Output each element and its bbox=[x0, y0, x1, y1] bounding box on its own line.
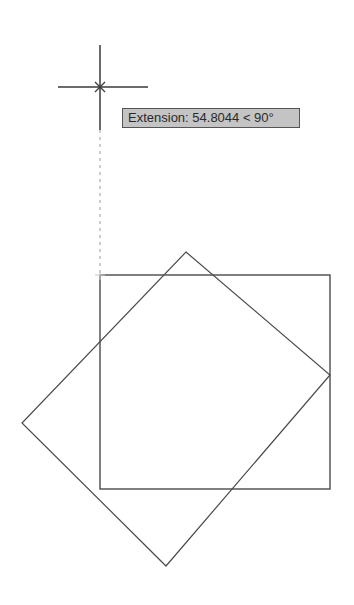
extension-tooltip-label: Extension: 54.8044 < 90° bbox=[128, 110, 274, 125]
extension-tooltip: Extension: 54.8044 < 90° bbox=[122, 108, 300, 128]
rotated-square-shape[interactable] bbox=[22, 252, 330, 566]
tracking-point-marker-icon bbox=[95, 270, 105, 280]
rectangle-shape[interactable] bbox=[100, 275, 330, 489]
drawing-canvas[interactable] bbox=[0, 0, 354, 605]
